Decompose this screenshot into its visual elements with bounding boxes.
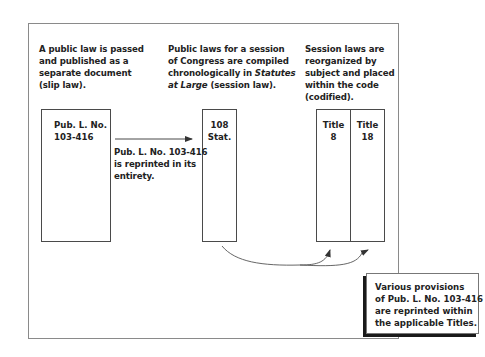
callout-line: Various provisions [375,281,483,293]
callout-text: Various provisions of Pub. L. No. 103-41… [375,281,483,329]
callout-line: the applicable Titles. [375,317,483,329]
curved-arrow-title-8-icon [222,246,330,265]
curved-arrow-title-18-icon [300,250,368,266]
callout-line: are reprinted within [375,305,483,317]
callout-box: Various provisions of Pub. L. No. 103-41… [366,273,479,334]
callout-line: of Pub. L. No. 103-416 [375,293,483,305]
